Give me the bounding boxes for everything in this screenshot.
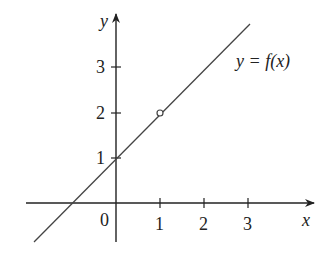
x-tick-label-2: 2 (199, 214, 208, 234)
function-line (34, 24, 250, 242)
origin-label: 0 (100, 210, 109, 230)
x-tick-label-3: 3 (243, 214, 252, 234)
open-circle-point (157, 110, 163, 116)
y-tick-label-2: 2 (96, 103, 105, 123)
y-axis-label: y (98, 11, 108, 31)
function-graph: 0 1 2 3 1 2 3 y x y = f(x) (0, 0, 324, 273)
y-tick-label-3: 3 (96, 57, 105, 77)
curve-label: y = f(x) (234, 51, 290, 72)
x-axis-label: x (301, 210, 310, 230)
x-tick-label-1: 1 (155, 214, 164, 234)
y-tick-label-1: 1 (96, 148, 105, 168)
